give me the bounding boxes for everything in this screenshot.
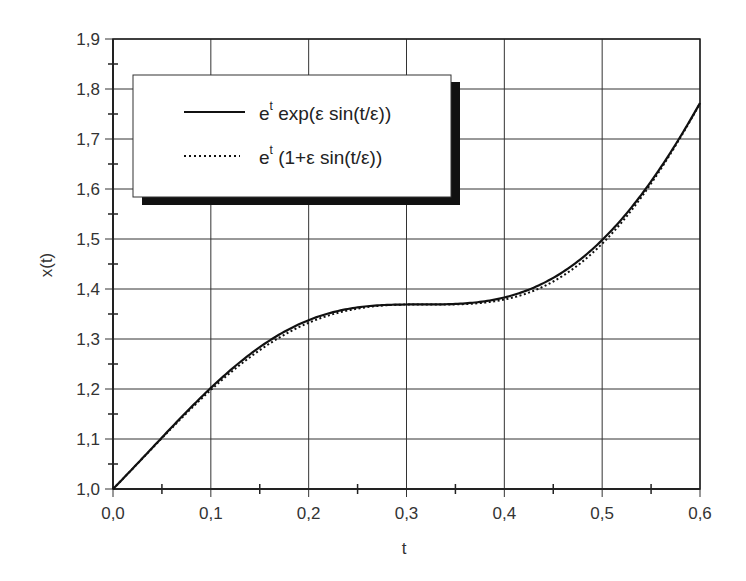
- legend: et exp(ε sin(t/ε)) et (1+ε sin(t/ε)): [133, 75, 460, 205]
- legend-label-1: et (1+ε sin(t/ε)): [259, 143, 382, 168]
- y-tick-label: 1,8: [76, 80, 100, 99]
- y-tick-label: 1,6: [76, 180, 100, 199]
- y-tick-label: 1,4: [76, 280, 100, 299]
- y-tick-label: 1,1: [76, 430, 100, 449]
- x-tick-label: 0,4: [493, 504, 517, 523]
- x-tick-label: 0,6: [688, 504, 712, 523]
- x-tick-label: 0,1: [199, 504, 223, 523]
- y-tick-label: 1,2: [76, 380, 100, 399]
- x-tick-label: 0,2: [297, 504, 321, 523]
- y-tick-label: 1,0: [76, 480, 100, 499]
- y-tick-label: 1,3: [76, 330, 100, 349]
- y-tick-label: 1,7: [76, 130, 100, 149]
- y-tick-labels: 1,01,11,21,31,41,51,61,71,81,9: [76, 30, 100, 499]
- y-tick-label: 1,9: [76, 30, 100, 49]
- y-axis-title: x(t): [37, 253, 56, 278]
- line-chart: 0,00,10,20,30,40,50,6 1,01,11,21,31,41,5…: [0, 0, 746, 581]
- x-axis-title: t: [402, 539, 407, 558]
- legend-box: [133, 75, 451, 197]
- x-tick-label: 0,5: [590, 504, 614, 523]
- x-tick-label: 0,3: [395, 504, 419, 523]
- legend-label-0: et exp(ε sin(t/ε)): [259, 99, 391, 124]
- y-tick-label: 1,5: [76, 230, 100, 249]
- x-tick-labels: 0,00,10,20,30,40,50,6: [101, 504, 712, 523]
- x-tick-label: 0,0: [101, 504, 125, 523]
